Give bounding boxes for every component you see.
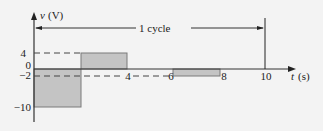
cycle-arrow-left-icon [35, 26, 42, 30]
waveform-chart: 1 cycle v (V) 4 0 −2 −10 4 6 8 10 t (s) [0, 0, 323, 131]
chart-canvas: 1 cycle v (V) 4 0 −2 −10 4 6 8 10 t (s) [0, 0, 323, 131]
y-axis-arrow-icon [31, 12, 37, 20]
bar-segment-6-8 [173, 69, 220, 76]
bar-segment-0-2 [34, 69, 81, 107]
y-axis-label: v [40, 9, 45, 21]
x-axis-label: t [291, 70, 295, 82]
bar-segment-2-4 [81, 53, 127, 69]
x-tick-8: 8 [221, 70, 227, 82]
x-axis-unit: (s) [298, 70, 310, 83]
cycle-arrow-right-icon [257, 26, 264, 30]
x-tick-4: 4 [125, 70, 131, 82]
y-axis-unit: (V) [48, 9, 64, 22]
y-tick-neg10: −10 [14, 101, 32, 113]
x-tick-10: 10 [261, 70, 273, 82]
cycle-label: 1 cycle [139, 22, 171, 34]
y-tick-neg2: −2 [19, 69, 31, 81]
y-tick-4: 4 [21, 47, 27, 59]
x-tick-6: 6 [168, 70, 174, 82]
